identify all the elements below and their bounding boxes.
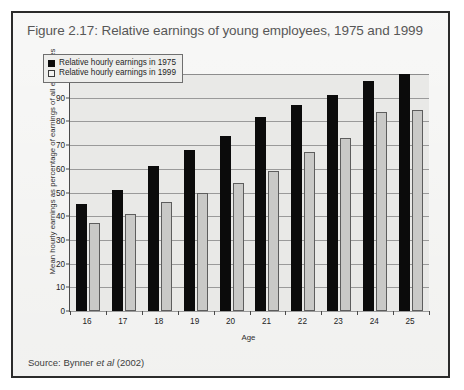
bar-group (142, 74, 178, 311)
x-axis-tick-mark (250, 311, 251, 315)
y-axis-tick-label: 10 (56, 283, 65, 292)
bar-19-1975 (184, 150, 195, 311)
bar-24-1975 (363, 81, 374, 311)
bar-23-1999 (340, 138, 351, 311)
x-axis-tick-mark (321, 311, 322, 315)
bar-group (106, 74, 142, 311)
bar-17-1975 (112, 190, 123, 311)
y-axis-tick-label: 0 (60, 307, 65, 316)
bar-23-1975 (327, 95, 338, 311)
chart-container: Mean hourly earnings as percentage of ea… (13, 45, 452, 357)
y-axis-tick-label: 30 (56, 235, 65, 244)
x-axis-tick-label: 25 (392, 317, 428, 326)
x-axis-tick-mark (429, 311, 430, 315)
y-axis-tick-mark (66, 263, 70, 264)
x-axis-tick-label: 24 (356, 317, 392, 326)
bar-24-1999 (376, 112, 387, 311)
bar-21-1999 (268, 171, 279, 311)
bar-group (250, 74, 286, 311)
bar-19-1999 (197, 193, 208, 312)
legend-item-1975: Relative hourly earnings in 1975 (48, 58, 176, 68)
bar-group (285, 74, 321, 311)
bar-20-1999 (233, 183, 244, 311)
x-axis-labels: 16171819202122232425 (69, 317, 428, 326)
y-axis-tick-mark (66, 168, 70, 169)
legend-swatch-icon-1999 (48, 70, 55, 77)
bar-21-1975 (255, 117, 266, 311)
y-axis-tick-mark (66, 192, 70, 193)
x-axis-tick-label: 23 (320, 317, 356, 326)
x-axis-tick-label: 20 (213, 317, 249, 326)
source-prefix: Source: Bynner (28, 357, 96, 368)
y-axis-tick-label: 70 (56, 141, 65, 150)
bar-20-1975 (220, 136, 231, 311)
source-citation-italic: et al (96, 357, 114, 368)
x-axis-tick-mark (357, 311, 358, 315)
legend-label-1999: Relative hourly earnings in 1999 (59, 68, 176, 78)
x-axis-tick-mark (142, 311, 143, 315)
bar-group (321, 74, 357, 311)
y-axis-tick-label: 60 (56, 164, 65, 173)
x-axis-tick-mark (214, 311, 215, 315)
y-axis-tick-mark (66, 121, 70, 122)
bar-22-1975 (291, 105, 302, 311)
x-axis-title: Age (69, 333, 428, 342)
bar-18-1975 (148, 166, 159, 311)
chart-legend: Relative hourly earnings in 1975 Relativ… (43, 54, 183, 83)
x-axis-tick-label: 18 (141, 317, 177, 326)
x-axis-tick-label: 21 (249, 317, 285, 326)
x-axis-tick-mark (393, 311, 394, 315)
bar-group (178, 74, 214, 311)
y-axis-tick-mark (66, 216, 70, 217)
bar-25-1975 (399, 74, 410, 311)
x-axis-tick-mark (285, 311, 286, 315)
bar-25-1999 (412, 110, 423, 311)
x-axis-tick-label: 22 (284, 317, 320, 326)
y-axis-tick-mark (66, 97, 70, 98)
legend-label-1975: Relative hourly earnings in 1975 (59, 58, 176, 68)
figure-frame: Figure 2.17: Relative earnings of young … (11, 11, 450, 378)
bar-group (214, 74, 250, 311)
legend-swatch-icon-1975 (48, 60, 55, 67)
bar-18-1999 (161, 202, 172, 311)
bar-group (357, 74, 393, 311)
x-axis-tick-label: 17 (105, 317, 141, 326)
bar-22-1999 (304, 152, 315, 311)
y-axis-tick-label: 80 (56, 117, 65, 126)
y-axis-tick-mark (66, 287, 70, 288)
x-axis-tick-label: 19 (177, 317, 213, 326)
source-note: Source: Bynner et al (2002) (28, 357, 144, 368)
source-suffix: (2002) (114, 357, 144, 368)
bar-group (393, 74, 429, 311)
x-axis-tick-mark (70, 311, 71, 315)
bar-16-1999 (89, 223, 100, 311)
figure-title: Figure 2.17: Relative earnings of young … (27, 23, 439, 38)
x-axis-tick-mark (178, 311, 179, 315)
x-axis-tick-label: 16 (69, 317, 105, 326)
plot-area: 0102030405060708090100 (69, 74, 429, 312)
y-axis-tick-label: 20 (56, 259, 65, 268)
bar-17-1999 (125, 214, 136, 311)
bar-series-layer (70, 74, 429, 311)
y-axis-tick-label: 90 (56, 93, 65, 102)
x-axis-tick-mark (106, 311, 107, 315)
y-axis-tick-label: 40 (56, 212, 65, 221)
bar-group (70, 74, 106, 311)
legend-item-1999: Relative hourly earnings in 1999 (48, 68, 176, 78)
y-axis-tick-label: 50 (56, 188, 65, 197)
y-axis-tick-mark (66, 145, 70, 146)
bar-16-1975 (76, 204, 87, 311)
y-axis-tick-mark (66, 239, 70, 240)
